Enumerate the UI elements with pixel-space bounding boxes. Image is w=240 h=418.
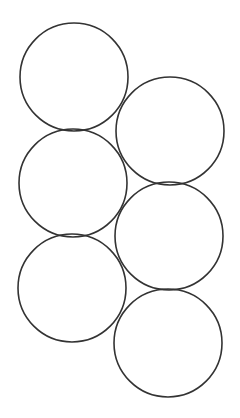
- circle-left-1: [20, 23, 128, 131]
- circle-packing-diagram: [0, 0, 240, 418]
- circle-left-2: [19, 129, 127, 237]
- circle-right-2: [115, 182, 223, 290]
- circle-right-1: [116, 77, 224, 185]
- circle-left-3: [18, 234, 126, 342]
- circle-right-3: [114, 289, 222, 397]
